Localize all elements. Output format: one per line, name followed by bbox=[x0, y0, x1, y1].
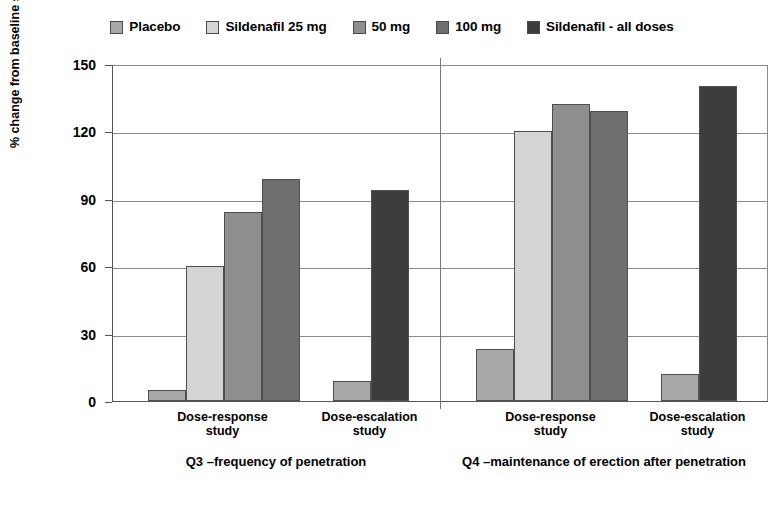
legend-item[interactable]: 100 mg bbox=[436, 20, 501, 34]
legend-item[interactable]: Sildenafil 25 mg bbox=[206, 20, 326, 34]
bar bbox=[262, 179, 300, 401]
legend-item-label: 50 mg bbox=[372, 20, 411, 34]
y-axis-tick-mark bbox=[105, 65, 112, 66]
y-axis-tick-label: 90 bbox=[52, 193, 96, 207]
legend-swatch-sildenafil-25mg bbox=[206, 21, 219, 34]
y-axis-title: % change from baseline score bbox=[8, 0, 22, 148]
legend-item-label: Placebo bbox=[129, 20, 180, 34]
bar bbox=[514, 131, 552, 401]
y-axis-tick-label: 60 bbox=[52, 260, 96, 274]
legend-swatch-placebo bbox=[110, 21, 123, 34]
bar bbox=[661, 374, 699, 401]
legend-swatch-all-doses bbox=[527, 21, 540, 34]
bar bbox=[476, 349, 514, 401]
y-axis-tick-label: 150 bbox=[52, 58, 96, 72]
plot-area bbox=[112, 65, 768, 402]
chart-legend: PlaceboSildenafil 25 mg50 mg100 mgSilden… bbox=[0, 14, 784, 40]
y-axis-tick-mark bbox=[105, 200, 112, 201]
legend-swatch-100mg bbox=[436, 21, 449, 34]
panel-caption: Q4 –maintenance of erection after penetr… bbox=[440, 454, 768, 470]
bar bbox=[186, 266, 224, 401]
legend-swatch-50mg bbox=[353, 21, 366, 34]
panel-caption: Q3 –frequency of penetration bbox=[112, 454, 440, 470]
bar bbox=[148, 390, 186, 401]
bar bbox=[371, 190, 409, 401]
panel-divider bbox=[440, 58, 441, 409]
x-axis-group-label: Dose-response study bbox=[448, 410, 653, 439]
bar bbox=[333, 381, 371, 401]
y-axis-tick-label: 0 bbox=[52, 395, 96, 409]
bar bbox=[552, 104, 590, 401]
y-axis-tick-mark bbox=[105, 402, 112, 403]
x-axis-group-label: Dose-escalation study bbox=[307, 410, 432, 439]
y-axis-tick-label: 30 bbox=[52, 328, 96, 342]
bar bbox=[590, 111, 628, 401]
y-axis-tick-mark bbox=[105, 335, 112, 336]
legend-item[interactable]: 50 mg bbox=[353, 20, 411, 34]
legend-item-label: Sildenafil - all doses bbox=[546, 20, 674, 34]
legend-item[interactable]: Sildenafil - all doses bbox=[527, 20, 674, 34]
x-axis-group-label: Dose-escalation study bbox=[635, 410, 760, 439]
legend-item-label: Sildenafil 25 mg bbox=[225, 20, 326, 34]
x-axis-group-label: Dose-response study bbox=[120, 410, 325, 439]
legend-item-label: 100 mg bbox=[455, 20, 501, 34]
legend-item[interactable]: Placebo bbox=[110, 20, 180, 34]
y-axis-tick-label: 120 bbox=[52, 125, 96, 139]
bar bbox=[224, 212, 262, 401]
y-axis-tick-mark bbox=[105, 132, 112, 133]
y-axis-tick-mark bbox=[105, 267, 112, 268]
bar bbox=[699, 86, 737, 401]
